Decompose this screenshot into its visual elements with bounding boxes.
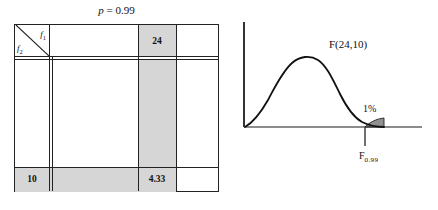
table-hline-header-b — [15, 59, 218, 60]
f-curve-svg — [232, 10, 432, 190]
table-hline-header-a — [15, 56, 218, 57]
f-distribution-chart: F(24,10) 1% F0.99 — [232, 10, 432, 190]
critical-value-label: F0.99 — [359, 150, 378, 164]
table-vline-header-b — [52, 56, 53, 191]
curve-label: F(24,10) — [329, 38, 367, 50]
tail-percent-label: 1% — [363, 103, 376, 114]
table-corner-cell: f1 f2 — [15, 25, 49, 56]
table-header-df2: f2 — [17, 43, 23, 55]
table-cell-df1-24: 24 — [138, 25, 176, 56]
table-cell-df2-10-value: 10 — [27, 174, 37, 184]
table-column-highlight-df1 — [138, 59, 176, 167]
table-header-df1: f1 — [40, 29, 46, 41]
table-cell-critical-value-text: 4.33 — [149, 174, 166, 184]
critical-value-sub: 0.99 — [365, 156, 379, 164]
density-curve — [245, 57, 384, 127]
table-title: p = 0.99 — [14, 4, 219, 16]
table-title-rest: = 0.99 — [104, 4, 135, 16]
table-header-df2-sub: 2 — [20, 48, 23, 55]
figure-root: p = 0.99 24 10 4.33 — [0, 0, 438, 210]
table-cell-df1-24-value: 24 — [152, 36, 162, 46]
table-cell-critical-value: 4.33 — [138, 167, 176, 192]
f-distribution-table: 24 10 4.33 f1 — [14, 24, 219, 192]
table-header-df1-sub: 1 — [43, 34, 46, 41]
table-hline-bottom-row — [15, 167, 218, 168]
table-cell-df2-10: 10 — [15, 167, 49, 192]
